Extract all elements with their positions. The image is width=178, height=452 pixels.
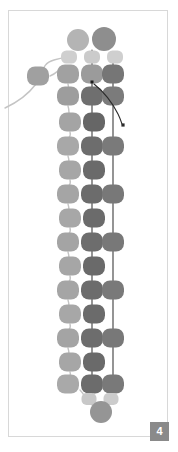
node-row14-right [102,375,124,394]
node-small-cap-c [107,51,123,64]
node-row11-center [83,305,105,324]
node-row4-left [57,137,79,156]
node-row4-right [102,137,124,156]
node-row7-left [59,209,81,228]
node-row14-left [57,375,79,394]
node-row1-right [102,65,124,84]
figure-canvas [0,0,178,452]
node-row5-center [83,161,105,180]
node-row13-center [83,353,105,372]
node-row12-right [102,329,124,348]
node-row3-center [83,113,105,132]
node-row8-center [81,233,103,252]
arrow-head-icon [121,123,124,126]
node-cap-bottom [90,401,112,423]
node-detached-node [27,67,49,86]
node-row2-left [57,87,79,106]
node-small-cap-b [84,51,100,64]
node-shapes-group [27,27,124,423]
marker-dot [91,81,94,84]
node-row6-left [57,185,79,204]
node-small-cap-a [61,51,77,64]
node-row11-left [59,305,81,324]
node-small-foot-a [82,393,97,405]
figure-root: 4 [0,0,178,452]
node-cap-top-left [67,29,89,51]
node-row8-left [57,233,79,252]
node-row4-center [81,137,103,156]
node-row7-center [83,209,105,228]
node-row5-left [59,161,81,180]
node-row2-right [102,87,124,106]
node-row10-left [57,281,79,300]
node-row12-center [81,329,103,348]
node-row14-center [81,375,103,394]
node-row3-left [59,113,81,132]
node-row6-center [81,185,103,204]
node-row10-center [81,281,103,300]
node-row9-center [83,257,105,276]
node-row13-left [59,353,81,372]
node-row9-left [59,257,81,276]
node-row6-right [102,185,124,204]
node-row1-left [57,65,79,84]
page-number-badge: 4 [150,422,169,441]
node-row8-right [102,233,124,252]
node-row12-left [57,329,79,348]
node-cap-top-right [92,27,116,51]
node-row10-right [102,281,124,300]
